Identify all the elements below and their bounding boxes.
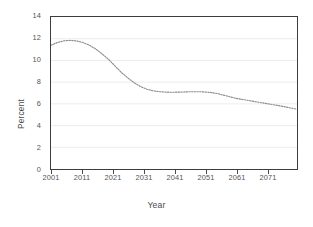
x-tick-label: 2031 <box>136 174 153 182</box>
y-axis: 14 12 10 8 6 4 2 0 <box>0 16 46 170</box>
plot-svg <box>51 17 297 169</box>
y-tick-label: 14 <box>33 12 41 19</box>
x-tick-label: 2011 <box>74 174 90 182</box>
y-tick-label: 10 <box>33 56 41 63</box>
y-tick-label: 12 <box>33 34 41 41</box>
y-tick-label: 4 <box>37 122 41 129</box>
y-tick-label: 8 <box>37 78 41 85</box>
x-tick-label: 2051 <box>198 174 215 182</box>
x-axis-title: Year <box>0 200 313 210</box>
x-tick-label: 2071 <box>260 174 277 182</box>
x-tick-label: 2041 <box>167 174 184 182</box>
y-tick-label: 2 <box>37 144 41 151</box>
x-tick-label: 2001 <box>43 174 60 182</box>
y-tick-label: 6 <box>37 100 41 107</box>
plot-area <box>50 16 298 170</box>
data-series-line <box>51 40 297 109</box>
y-tick-label: 0 <box>37 166 41 173</box>
chart-figure: 14 12 10 8 6 4 2 0 Percent <box>0 0 313 227</box>
x-tick-label: 2021 <box>105 174 122 182</box>
gridlines <box>51 39 297 148</box>
x-tick-label: 2061 <box>229 174 246 182</box>
x-axis: 2001 2011 2021 2031 2041 2051 2061 2071 <box>0 174 313 188</box>
y-axis-title: Percent <box>16 99 26 129</box>
